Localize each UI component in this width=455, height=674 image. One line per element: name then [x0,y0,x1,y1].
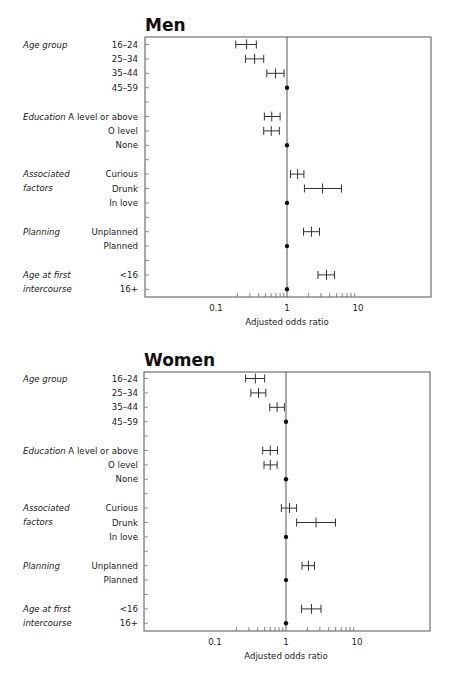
group-age-group: Age group16–2425–3435–4445–59 [22,40,289,93]
group-label: Associated [22,503,70,513]
row-label: Drunk [112,518,138,528]
group-label: intercourse [23,618,72,628]
row-label: Unplanned [92,227,138,237]
group-associated-factors: AssociatedfactorsCuriousDrunkIn love [22,169,342,208]
row-label: 25–34 [112,54,138,64]
group-planning: PlanningUnplannedPlanned [23,561,314,585]
group-planning: PlanningUnplannedPlanned [23,227,320,251]
reference-point [284,420,288,424]
x-tick-label: 0.1 [208,637,222,647]
panel-title: Women [144,350,215,370]
reference-point [285,244,289,248]
row-label: A level or above [68,446,138,456]
forest-plot-figure: Men0.1110Adjusted odds ratioAge group16–… [0,0,455,674]
reference-point [285,86,289,90]
reference-point [284,578,288,582]
panel-women: Women0.1110Adjusted odds ratioAge group1… [22,350,430,661]
group-label: Education [23,446,66,456]
plot-frame [144,372,430,631]
group-age-at-first-intercourse: Age at firstintercourse<1616+ [22,270,335,294]
group-label: Education [23,112,66,122]
reference-point [284,535,288,539]
row-label: <16 [120,604,138,614]
group-education: EducationA level or aboveO levelNone [23,112,289,151]
row-label: Unplanned [92,561,138,571]
group-age-at-first-intercourse: Age at firstintercourse<1616+ [22,604,321,628]
row-label: 35–44 [112,68,138,78]
row-label: Planned [104,575,138,585]
row-label: 25–34 [112,388,138,398]
row-label: A level or above [68,112,138,122]
group-label: Age at first [22,604,71,614]
row-label: 16+ [120,618,138,628]
row-label: In love [109,198,138,208]
x-tick-label: 10 [353,303,364,313]
figure: Men0.1110Adjusted odds ratioAge group16–… [0,0,455,674]
x-tick-label: 1 [283,637,288,647]
group-label: Planning [23,561,61,571]
reference-point [284,477,288,481]
row-label: 35–44 [112,402,138,412]
row-label: In love [109,532,138,542]
reference-point [285,143,289,147]
group-label: Age at first [22,270,71,280]
group-education: EducationA level or aboveO levelNone [23,446,288,485]
row-label: 45–59 [112,417,138,427]
row-label: Drunk [112,184,138,194]
group-label: intercourse [23,284,72,294]
x-tick-label: 0.1 [209,303,223,313]
row-label: <16 [120,270,138,280]
plot-frame [145,37,431,297]
row-label: 45–59 [112,83,138,93]
group-label: Planning [23,227,61,237]
row-label: Planned [104,241,138,251]
group-age-group: Age group16–2425–3435–4445–59 [22,374,288,427]
row-label: 16–24 [112,374,138,384]
group-associated-factors: AssociatedfactorsCuriousDrunkIn love [22,503,336,542]
row-label: Curious [105,169,138,179]
group-label: Associated [22,169,70,179]
row-label: 16–24 [112,40,138,50]
reference-point [284,621,288,625]
group-label: Age group [22,374,68,384]
reference-point [285,287,289,291]
row-label: None [116,474,138,484]
group-label: Age group [22,40,68,50]
panel-men: Men0.1110Adjusted odds ratioAge group16–… [22,15,431,327]
row-label: O level [108,126,138,136]
reference-point [285,201,289,205]
row-label: 16+ [120,284,138,294]
group-label: factors [23,183,53,193]
x-tick-label: 1 [284,303,289,313]
panel-title: Men [145,15,186,35]
x-axis-label: Adjusted odds ratio [245,317,329,327]
row-label: O level [108,460,138,470]
row-label: None [116,140,138,150]
x-tick-label: 10 [352,637,363,647]
group-label: factors [23,517,53,527]
row-label: Curious [105,503,138,513]
x-axis-label: Adjusted odds ratio [244,651,328,661]
